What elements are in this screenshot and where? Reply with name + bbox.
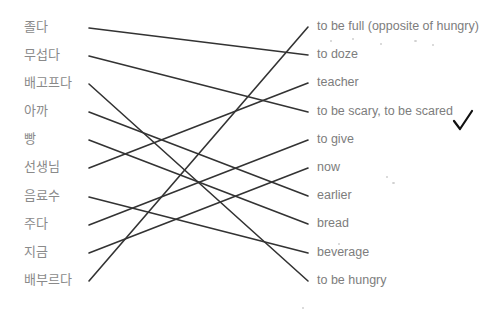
right-word-0[interactable]: to be full (opposite of hungry) — [317, 18, 479, 34]
right-word-7[interactable]: bread — [317, 215, 349, 231]
right-word-3[interactable]: to be scary, to be scared — [317, 103, 453, 119]
connection-lines — [0, 0, 504, 317]
right-word-6[interactable]: earlier — [317, 187, 352, 203]
match-line-8 — [89, 168, 308, 253]
right-word-8[interactable]: beverage — [317, 244, 369, 260]
left-word-6[interactable]: 음료수 — [24, 188, 60, 204]
left-word-1[interactable]: 무섭다 — [24, 47, 60, 63]
match-line-0 — [89, 28, 308, 55]
left-word-7[interactable]: 주다 — [24, 216, 48, 232]
matching-exercise: 졸다 무섭다 배고프다 아까 빵 선생님 음료수 주다 지금 배부르다 to b… — [0, 0, 504, 317]
right-word-2[interactable]: teacher — [317, 74, 359, 90]
left-word-0[interactable]: 졸다 — [24, 19, 48, 35]
left-word-5[interactable]: 선생님 — [24, 159, 60, 175]
right-word-4[interactable]: to give — [317, 131, 354, 147]
left-word-3[interactable]: 아까 — [24, 103, 48, 119]
left-word-2[interactable]: 배고프다 — [24, 75, 72, 91]
left-word-9[interactable]: 배부르다 — [24, 272, 72, 288]
match-line-6 — [89, 197, 308, 253]
right-word-1[interactable]: to doze — [317, 46, 358, 62]
right-word-5[interactable]: now — [317, 159, 340, 175]
left-word-4[interactable]: 빵 — [24, 131, 36, 147]
match-line-5 — [89, 83, 308, 168]
checkmark-icon — [452, 108, 474, 132]
left-word-8[interactable]: 지금 — [24, 244, 48, 260]
right-word-9[interactable]: to be hungry — [317, 272, 387, 288]
